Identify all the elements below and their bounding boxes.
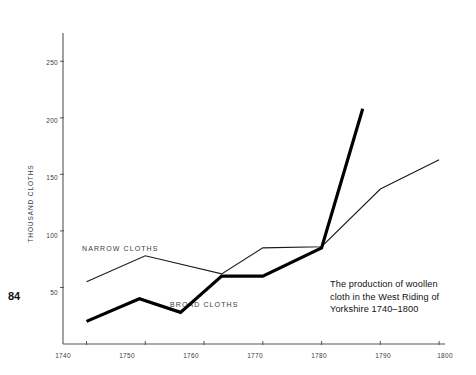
axis-lines [63,33,445,344]
series-line-broad-cloths [87,109,363,322]
series-line-narrow-cloths [87,160,440,282]
chart-plot-area [0,0,476,375]
chart-figure: 84 THOUSAND CLOTHS 250 200 150 100 50 17… [0,0,476,375]
